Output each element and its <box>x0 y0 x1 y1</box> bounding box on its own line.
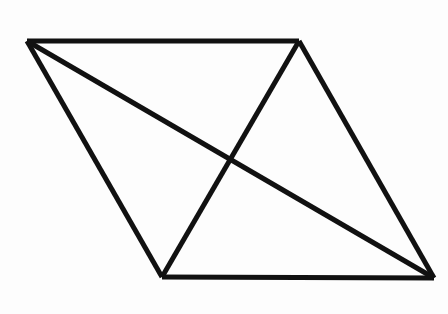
edge-bottom <box>162 277 434 278</box>
geometry-figure-svg <box>0 0 448 314</box>
figure-canvas <box>0 0 448 314</box>
